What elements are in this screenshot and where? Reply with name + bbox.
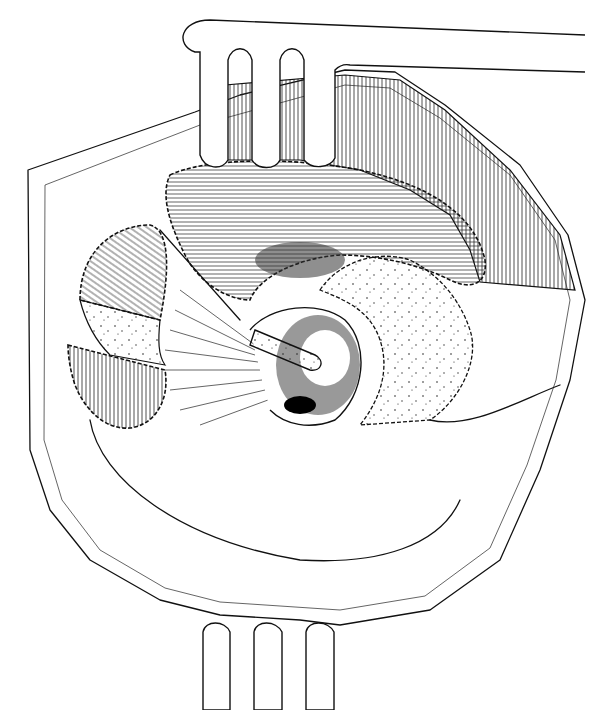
anatomical-drawing <box>0 0 602 710</box>
lower-retractor <box>203 623 334 710</box>
left-divided-flap <box>68 225 167 428</box>
illustration-canvas <box>0 0 602 710</box>
